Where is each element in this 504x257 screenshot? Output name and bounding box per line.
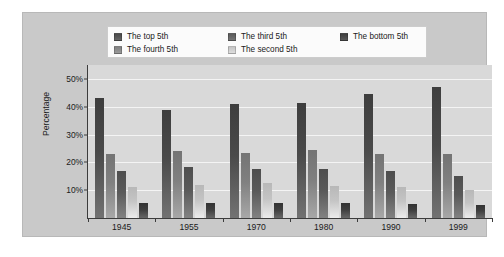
bar[interactable] bbox=[139, 203, 148, 218]
bar[interactable] bbox=[173, 151, 182, 218]
legend-label: The top 5th bbox=[127, 30, 168, 43]
bar-groups bbox=[88, 65, 492, 218]
x-tick-label: 1970 bbox=[223, 222, 290, 232]
legend-swatch-icon bbox=[340, 33, 348, 41]
bar[interactable] bbox=[252, 169, 261, 218]
bar[interactable] bbox=[195, 185, 204, 218]
bar-group bbox=[155, 65, 222, 218]
bar[interactable] bbox=[364, 94, 373, 218]
bar[interactable] bbox=[330, 186, 339, 218]
x-tick-mark bbox=[223, 218, 224, 222]
bar[interactable] bbox=[106, 154, 115, 218]
bar[interactable] bbox=[341, 203, 350, 218]
bar[interactable] bbox=[297, 103, 306, 218]
bar-group bbox=[425, 65, 492, 218]
bar-chart: The top 5thThe third 5thThe bottom 5thTh… bbox=[0, 0, 504, 257]
bar[interactable] bbox=[476, 205, 485, 218]
bar[interactable] bbox=[454, 176, 463, 218]
y-axis-title: Percentage bbox=[41, 69, 51, 159]
bar[interactable] bbox=[206, 203, 215, 218]
bar[interactable] bbox=[230, 104, 239, 218]
x-tick-label: 1945 bbox=[88, 222, 155, 232]
bar[interactable] bbox=[128, 187, 137, 218]
legend-label: The bottom 5th bbox=[353, 30, 408, 43]
x-tick-label: 1990 bbox=[357, 222, 424, 232]
y-tick-label: 10% bbox=[66, 185, 83, 195]
x-tick-label: 1980 bbox=[290, 222, 357, 232]
legend-swatch-icon bbox=[114, 33, 122, 41]
x-tick-mark bbox=[357, 218, 358, 222]
x-tick-mark bbox=[425, 218, 426, 222]
x-tick-mark bbox=[492, 218, 493, 222]
bar[interactable] bbox=[408, 204, 417, 218]
legend-entry: The bottom 5th bbox=[340, 30, 421, 43]
bar[interactable] bbox=[443, 154, 452, 218]
legend-label: The third 5th bbox=[241, 30, 287, 43]
y-tick-label: 50% bbox=[66, 74, 83, 84]
legend-entry: The top 5th bbox=[114, 30, 226, 43]
legend-entry: The second 5th bbox=[228, 43, 338, 56]
legend-swatch-icon bbox=[228, 33, 236, 41]
legend-entry: The fourth 5th bbox=[114, 43, 226, 56]
bar[interactable] bbox=[397, 187, 406, 218]
x-tick-mark bbox=[88, 218, 89, 222]
legend-swatch-icon bbox=[114, 46, 122, 54]
y-axis-ticks: 10%20%30%40%50% bbox=[23, 65, 83, 218]
bar[interactable] bbox=[308, 150, 317, 218]
legend-label: The second 5th bbox=[241, 43, 297, 56]
x-axis-labels: 194519551970198019901999 bbox=[88, 222, 492, 232]
bar-group bbox=[88, 65, 155, 218]
x-tick-mark bbox=[155, 218, 156, 222]
bar[interactable] bbox=[95, 98, 104, 218]
bar[interactable] bbox=[386, 171, 395, 218]
x-tick-mark bbox=[290, 218, 291, 222]
bar[interactable] bbox=[263, 183, 272, 218]
y-tick-label: 30% bbox=[66, 130, 83, 140]
bar[interactable] bbox=[274, 203, 283, 218]
legend-entry: The third 5th bbox=[228, 30, 338, 43]
bar[interactable] bbox=[162, 110, 171, 218]
bar-group bbox=[290, 65, 357, 218]
bar[interactable] bbox=[241, 153, 250, 218]
y-tick-label: 20% bbox=[66, 157, 83, 167]
legend-swatch-icon bbox=[228, 46, 236, 54]
bar-group bbox=[357, 65, 424, 218]
bar[interactable] bbox=[319, 169, 328, 218]
x-tick-label: 1955 bbox=[155, 222, 222, 232]
bar[interactable] bbox=[117, 171, 126, 218]
bar[interactable] bbox=[465, 190, 474, 218]
bar-group bbox=[223, 65, 290, 218]
x-tick-label: 1999 bbox=[425, 222, 492, 232]
legend-label: The fourth 5th bbox=[127, 43, 178, 56]
bar[interactable] bbox=[375, 154, 384, 218]
y-tick-label: 40% bbox=[66, 102, 83, 112]
bar[interactable] bbox=[432, 87, 441, 218]
chart-legend: The top 5thThe third 5thThe bottom 5thTh… bbox=[107, 26, 427, 58]
figure-panel: The top 5thThe third 5thThe bottom 5thTh… bbox=[22, 12, 487, 237]
bar[interactable] bbox=[184, 167, 193, 218]
